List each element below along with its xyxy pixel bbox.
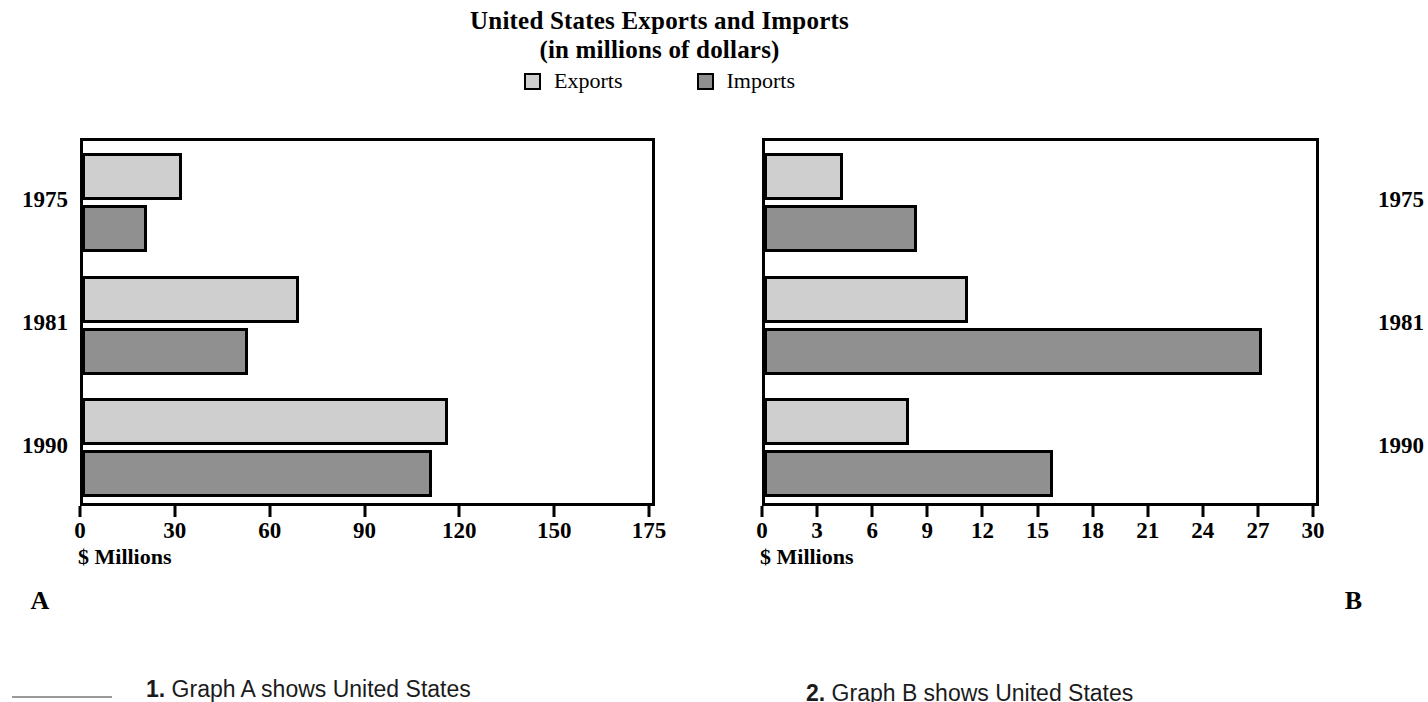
bar-a-1990-imports xyxy=(82,450,432,497)
x-tick-label-a-175: 175 xyxy=(632,519,667,542)
x-tick-a-60 xyxy=(268,506,271,517)
y-axis-label-a-1975: 1975 xyxy=(22,188,68,211)
page-title-line-1: United States Exports and Imports xyxy=(0,6,1319,35)
answer-blank-line[interactable] xyxy=(12,696,112,698)
legend-item-imports: Imports xyxy=(697,70,795,92)
legend-swatch-imports-icon xyxy=(697,73,714,90)
bar-b-1990-exports xyxy=(764,398,909,445)
question-number-1: 1. xyxy=(146,676,165,702)
panel-letter-a: A xyxy=(0,588,370,614)
chart-legend: Exports Imports xyxy=(0,70,1319,92)
panel-letter-b: B xyxy=(1035,588,1428,614)
bar-a-1975-exports xyxy=(82,153,182,200)
y-axis-label-b-1990: 1990 xyxy=(1378,433,1424,456)
question-number-2: 2. xyxy=(806,680,825,702)
x-tick-label-b-24: 24 xyxy=(1191,519,1214,542)
y-axis-label-b-1975: 1975 xyxy=(1378,188,1424,211)
x-tick-label-b-15: 15 xyxy=(1026,519,1049,542)
y-axis-label-a-1981: 1981 xyxy=(22,311,68,334)
x-tick-label-a-90: 90 xyxy=(353,519,376,542)
y-axis-labels-a: 197519811990 xyxy=(2,138,74,506)
plot-area-b xyxy=(762,138,1319,506)
legend-item-exports: Exports xyxy=(524,70,622,92)
question-item-2: 2. Graph B shows United States xyxy=(806,680,1133,702)
x-tick-label-a-120: 120 xyxy=(442,519,477,542)
question-text-2: Graph B shows United States xyxy=(832,680,1134,702)
question-item-1: 1. Graph A shows United States xyxy=(146,676,471,702)
plot-area-a xyxy=(80,138,655,506)
x-tick-a-30 xyxy=(173,506,176,517)
x-tick-label-b-27: 27 xyxy=(1246,519,1269,542)
x-tick-b-0 xyxy=(761,506,764,517)
x-tick-label-a-0: 0 xyxy=(74,519,86,542)
x-tick-a-150 xyxy=(553,506,556,517)
x-tick-label-a-30: 30 xyxy=(163,519,186,542)
x-tick-b-3 xyxy=(816,506,819,517)
x-tick-b-9 xyxy=(926,506,929,517)
x-tick-a-90 xyxy=(363,506,366,517)
bar-a-1975-imports xyxy=(82,205,147,252)
legend-label-imports: Imports xyxy=(727,70,795,92)
page-title-line-2: (in millions of dollars) xyxy=(0,35,1319,64)
x-tick-b-27 xyxy=(1256,506,1259,517)
x-tick-b-12 xyxy=(981,506,984,517)
x-tick-b-6 xyxy=(871,506,874,517)
question-text-1: Graph A shows United States xyxy=(172,676,471,702)
y-axis-labels-b: 197519811990 xyxy=(1358,138,1428,506)
bar-b-1981-exports xyxy=(764,276,968,323)
y-axis-label-a-1990: 1990 xyxy=(22,433,68,456)
worksheet-questions: 1. Graph A shows United States 2. Graph … xyxy=(0,676,1319,702)
x-axis-title-a: $ Millions xyxy=(78,546,172,568)
bar-b-1990-imports xyxy=(764,450,1053,497)
x-tick-b-18 xyxy=(1091,506,1094,517)
x-tick-label-a-150: 150 xyxy=(537,519,572,542)
legend-swatch-exports-icon xyxy=(524,73,541,90)
y-axis-label-b-1981: 1981 xyxy=(1378,311,1424,334)
x-tick-a-0 xyxy=(79,506,82,517)
x-tick-label-b-9: 9 xyxy=(922,519,934,542)
legend-label-exports: Exports xyxy=(554,70,622,92)
x-tick-label-a-60: 60 xyxy=(258,519,281,542)
x-tick-label-b-30: 30 xyxy=(1302,519,1325,542)
x-tick-b-15 xyxy=(1036,506,1039,517)
bar-b-1975-imports xyxy=(764,205,917,252)
x-tick-b-21 xyxy=(1146,506,1149,517)
x-tick-a-175 xyxy=(648,506,651,517)
bar-b-1981-imports xyxy=(764,328,1262,375)
x-tick-label-b-12: 12 xyxy=(971,519,994,542)
bar-a-1990-exports xyxy=(82,398,448,445)
bar-a-1981-exports xyxy=(82,276,299,323)
bar-a-1981-imports xyxy=(82,328,248,375)
x-axis-title-b: $ Millions xyxy=(760,546,854,568)
x-tick-label-b-18: 18 xyxy=(1081,519,1104,542)
bar-b-1975-exports xyxy=(764,153,843,200)
x-tick-label-b-21: 21 xyxy=(1136,519,1159,542)
x-tick-label-b-6: 6 xyxy=(866,519,878,542)
x-tick-a-120 xyxy=(458,506,461,517)
x-tick-label-b-3: 3 xyxy=(811,519,823,542)
x-tick-b-24 xyxy=(1201,506,1204,517)
x-tick-label-b-0: 0 xyxy=(756,519,768,542)
x-tick-b-30 xyxy=(1312,506,1315,517)
chart-title-block: United States Exports and Imports (in mi… xyxy=(0,6,1319,64)
